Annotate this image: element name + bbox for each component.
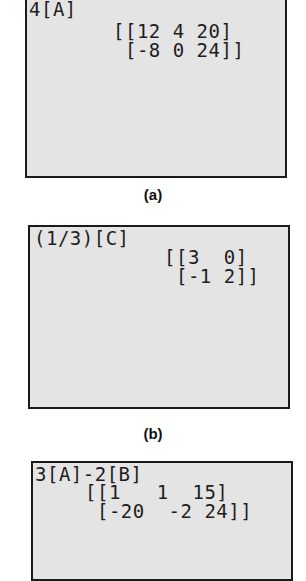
matrix-row-2: [-8 0 24]] xyxy=(113,41,244,60)
matrix-row-2: [-20 -2 24]] xyxy=(85,502,252,521)
calculator-screen-b: (1/3)[C] [[3 0] [-1 2]] xyxy=(28,225,290,409)
expression-line: (1/3)[C] xyxy=(34,229,130,248)
matrix-row-2: [-1 2]] xyxy=(164,267,260,286)
calculator-screen-a: 4[A] [[12 4 20] [-8 0 24]] xyxy=(25,0,287,178)
caption-b: (b) xyxy=(0,425,306,442)
expression-line: 4[A] xyxy=(29,0,77,19)
calculator-screen-c: 3[A]-2[B] [[1 1 15] [-20 -2 24]] xyxy=(31,461,293,581)
caption-a: (a) xyxy=(0,186,306,203)
